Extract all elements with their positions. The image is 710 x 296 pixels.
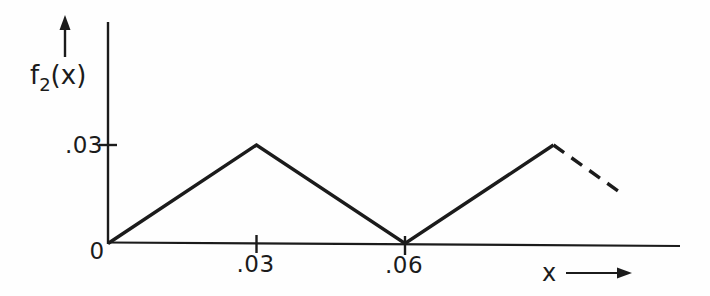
x-axis-tick-label-003: .03 — [236, 251, 274, 277]
y-axis-title-rest: (x) — [51, 60, 87, 90]
y-axis-title-subscript: 2 — [39, 74, 50, 95]
figure-canvas: .03 .03 .06 0 f2(x) x — [0, 0, 710, 296]
x-axis-tick-label-006: .06 — [385, 252, 423, 278]
waveform-solid-line — [108, 145, 554, 244]
y-axis-title: f2(x) — [30, 60, 86, 95]
origin-label: 0 — [89, 238, 104, 264]
x-axis-line — [108, 243, 680, 247]
figure-triangular-wave: .03 .03 .06 0 f2(x) x — [0, 0, 710, 296]
y-direction-arrow-icon — [60, 15, 71, 57]
y-axis-tick-label-003: .03 — [65, 132, 103, 158]
x-direction-arrow-icon — [566, 268, 632, 279]
x-axis-title: x — [542, 259, 556, 287]
waveform-dashed-continuation — [554, 145, 623, 194]
